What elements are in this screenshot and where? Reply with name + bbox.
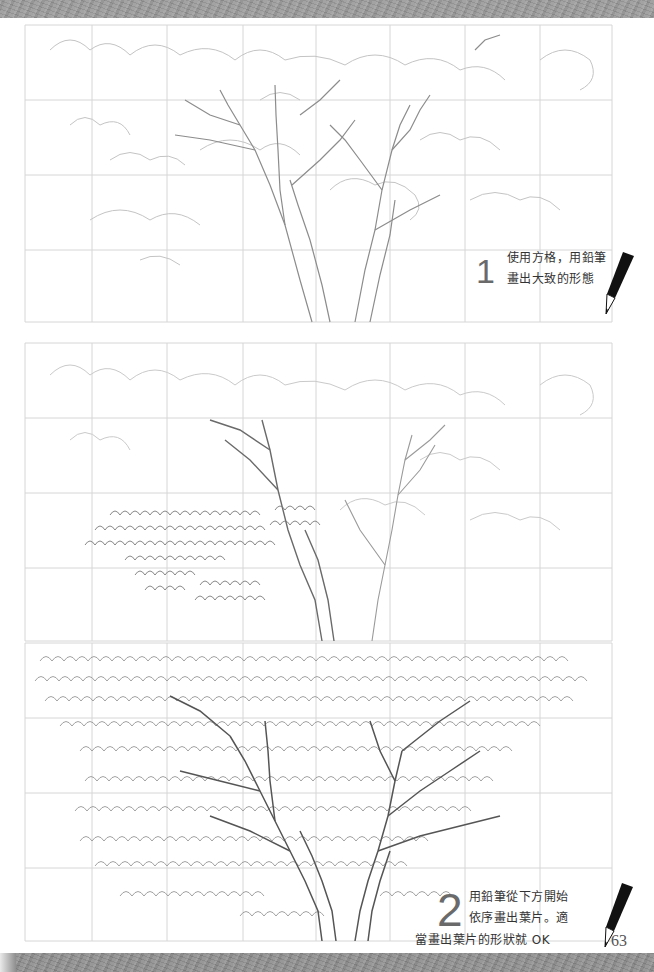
- step1-line2: 畫出大致的形態: [507, 269, 607, 290]
- pencil-icon: [603, 250, 635, 316]
- panel-step3: 2 用鉛筆從下方開始 依序畫出葉片。適 當畫出葉片的形狀就 OK 63: [0, 641, 654, 953]
- panel-step2: [0, 330, 654, 642]
- step2-line3: 當畫出葉片的形狀就 OK: [415, 930, 550, 951]
- panel-step1: 1 使用方格，用鉛筆 畫出大致的形態: [0, 0, 654, 330]
- bottom-texture-band: [0, 953, 654, 972]
- step-number-2: 2: [437, 887, 463, 933]
- tree-sketch-partial-leaves: [0, 330, 654, 642]
- step1-line1: 使用方格，用鉛筆: [507, 248, 607, 269]
- step2-line1: 用鉛筆從下方開始: [469, 887, 569, 908]
- page-number: 63: [611, 932, 627, 950]
- step1-caption: 1 使用方格，用鉛筆 畫出大致的形態: [476, 248, 607, 290]
- step2-caption: 2 用鉛筆從下方開始 依序畫出葉片。適: [437, 887, 569, 933]
- step-number-1: 1: [476, 254, 495, 288]
- step2-line2: 依序畫出葉片。適: [469, 908, 569, 929]
